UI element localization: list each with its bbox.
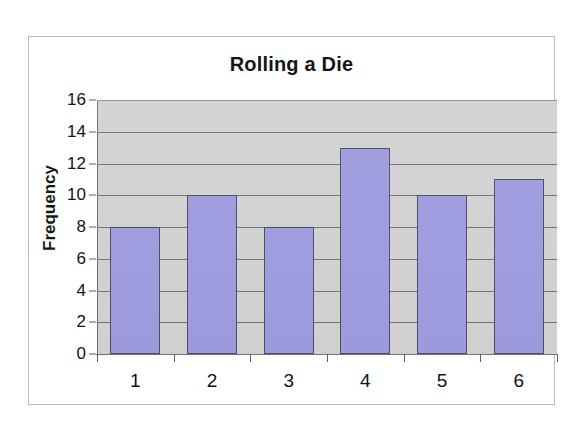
y-tick-label-8: 8 bbox=[77, 217, 86, 237]
y-tick-label-12: 12 bbox=[67, 154, 86, 174]
plot-area: 0246810121416 bbox=[97, 100, 557, 354]
bar-slot-6 bbox=[480, 100, 557, 354]
x-tick-mark-3 bbox=[250, 354, 251, 362]
x-axis-slot-4: 4 bbox=[327, 354, 404, 404]
bar-4[interactable] bbox=[340, 148, 390, 354]
x-axis-slot-1: 1 bbox=[97, 354, 174, 404]
y-axis-title: Frequency bbox=[40, 118, 62, 298]
x-tick-label-6: 6 bbox=[480, 370, 557, 392]
bar-slot-2 bbox=[174, 100, 251, 354]
y-tick-mark-2 bbox=[89, 322, 96, 323]
y-tick-label-16: 16 bbox=[67, 90, 86, 110]
x-tick-mark-6 bbox=[480, 354, 481, 362]
y-tick-mark-16 bbox=[89, 100, 96, 101]
x-tick-label-3: 3 bbox=[250, 370, 327, 392]
y-tick-mark-10 bbox=[89, 195, 96, 196]
bar-slot-4 bbox=[327, 100, 404, 354]
x-tick-mark-4 bbox=[327, 354, 328, 362]
bar-2[interactable] bbox=[187, 195, 237, 354]
y-tick-label-0: 0 bbox=[77, 344, 86, 364]
bar-slot-3 bbox=[250, 100, 327, 354]
x-axis-slot-3: 3 bbox=[250, 354, 327, 404]
y-tick-label-10: 10 bbox=[67, 185, 86, 205]
chart-title: Rolling a Die bbox=[29, 53, 554, 76]
x-tick-label-2: 2 bbox=[174, 370, 251, 392]
y-tick-mark-12 bbox=[89, 163, 96, 164]
x-tick-label-1: 1 bbox=[97, 370, 174, 392]
bar-slot-5 bbox=[404, 100, 481, 354]
x-axis-slot-6: 6 bbox=[480, 354, 557, 404]
x-axis-slot-5: 5 bbox=[404, 354, 481, 404]
x-axis-slot-2: 2 bbox=[174, 354, 251, 404]
y-tick-mark-6 bbox=[89, 258, 96, 259]
bar-3[interactable] bbox=[264, 227, 314, 354]
y-tick-label-2: 2 bbox=[77, 312, 86, 332]
y-tick-label-4: 4 bbox=[77, 281, 86, 301]
y-tick-mark-8 bbox=[89, 227, 96, 228]
bars-layer bbox=[97, 100, 557, 354]
x-tick-label-5: 5 bbox=[404, 370, 481, 392]
y-tick-mark-14 bbox=[89, 131, 96, 132]
y-tick-label-6: 6 bbox=[77, 249, 86, 269]
x-tick-label-4: 4 bbox=[327, 370, 404, 392]
bar-6[interactable] bbox=[494, 179, 544, 354]
chart-frame: Rolling a Die Frequency 0246810121416 12… bbox=[28, 36, 555, 405]
bar-slot-1 bbox=[97, 100, 174, 354]
y-tick-mark-4 bbox=[89, 290, 96, 291]
x-tick-mark-end bbox=[557, 354, 558, 362]
bar-1[interactable] bbox=[110, 227, 160, 354]
x-axis-tick-layer: 123456 bbox=[97, 354, 557, 404]
y-tick-mark-0 bbox=[89, 354, 96, 355]
x-tick-mark-5 bbox=[404, 354, 405, 362]
x-tick-mark-1 bbox=[97, 354, 98, 362]
y-tick-label-14: 14 bbox=[67, 122, 86, 142]
x-tick-mark-2 bbox=[174, 354, 175, 362]
bar-5[interactable] bbox=[417, 195, 467, 354]
